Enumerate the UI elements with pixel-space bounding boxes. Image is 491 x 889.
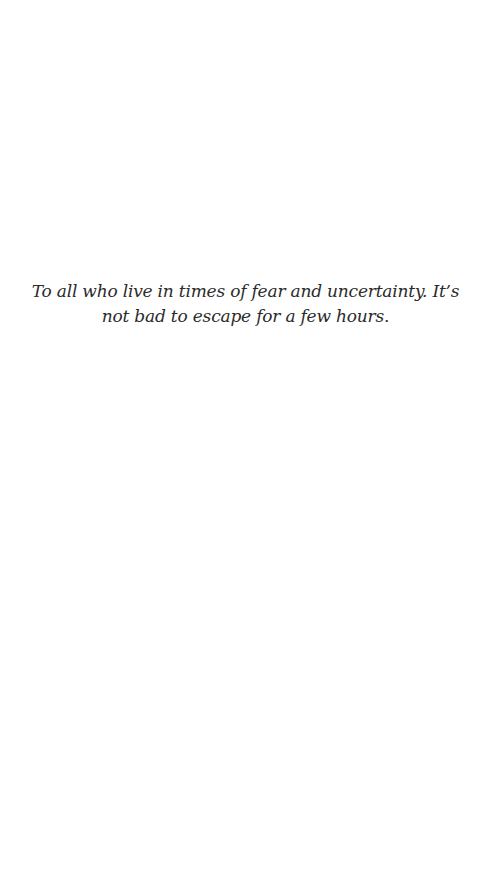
- dedication-text: To all who live in times of fear and unc…: [26, 279, 465, 329]
- book-page: To all who live in times of fear and unc…: [0, 0, 491, 889]
